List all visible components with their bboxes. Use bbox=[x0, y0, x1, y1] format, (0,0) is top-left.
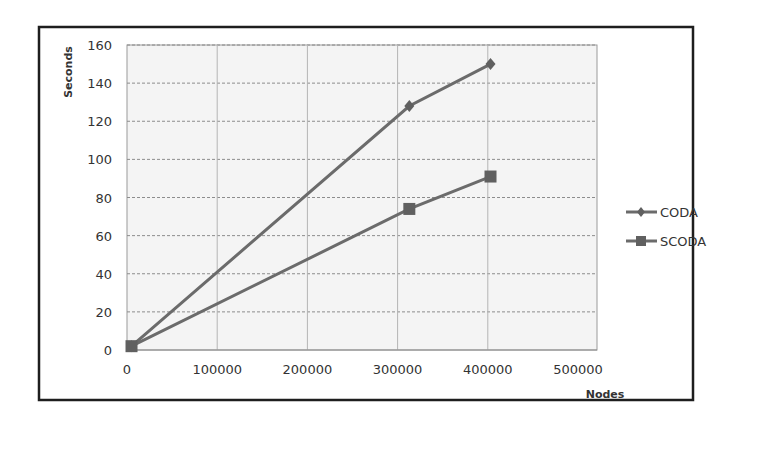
scoda-marker bbox=[126, 340, 138, 352]
x-tick-label: 500000 bbox=[553, 362, 603, 377]
legend-square-marker-icon bbox=[636, 236, 646, 246]
y-tick-label: 20 bbox=[95, 305, 112, 320]
x-tick-label: 300000 bbox=[373, 362, 423, 377]
x-axis-title: Nodes bbox=[586, 388, 625, 401]
y-axis-title: Seconds bbox=[62, 46, 75, 98]
y-tick-label: 160 bbox=[87, 38, 112, 53]
y-tick-label: 0 bbox=[104, 343, 112, 358]
y-tick-label: 140 bbox=[87, 76, 112, 91]
x-tick-label: 400000 bbox=[463, 362, 513, 377]
y-tick-label: 100 bbox=[87, 152, 112, 167]
y-tick-label: 40 bbox=[95, 267, 112, 282]
line-chart: 020406080100120140160 010000020000030000… bbox=[0, 0, 762, 450]
legend-label: SCODA bbox=[660, 234, 706, 249]
y-tick-label: 120 bbox=[87, 114, 112, 129]
y-tick-label: 80 bbox=[95, 191, 112, 206]
y-tick-label: 60 bbox=[95, 229, 112, 244]
x-tick-label: 0 bbox=[123, 362, 131, 377]
scoda-marker bbox=[403, 203, 415, 215]
x-tick-label: 200000 bbox=[283, 362, 333, 377]
x-tick-label: 100000 bbox=[192, 362, 242, 377]
scoda-marker bbox=[485, 171, 497, 183]
legend-label: CODA bbox=[660, 205, 698, 220]
